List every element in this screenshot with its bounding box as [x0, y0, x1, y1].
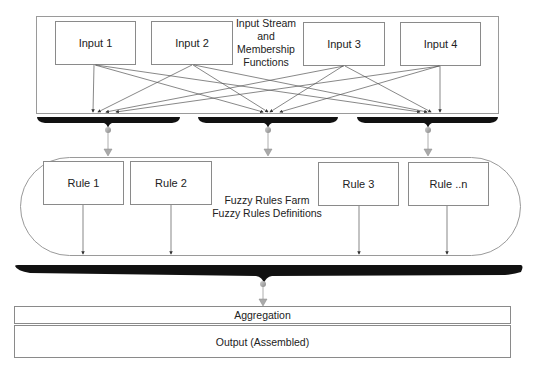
input-to-rules-connectors [104, 127, 432, 156]
input-crossing-lines [93, 65, 440, 112]
connector-layer [0, 0, 537, 370]
rule-output-lines [83, 205, 447, 254]
rules-merge-bar [15, 265, 523, 283]
rules-to-aggregation-connector [259, 281, 267, 306]
input-bars [37, 117, 498, 128]
